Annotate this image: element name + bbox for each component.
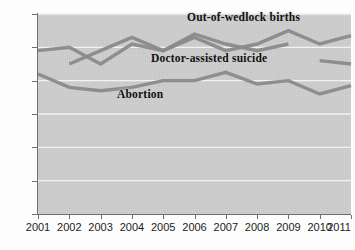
y-tick-mark bbox=[32, 47, 37, 48]
series-label-doctor-assisted-suicide: Doctor-assisted suicide bbox=[151, 52, 267, 64]
y-tick-mark bbox=[32, 147, 37, 148]
x-tick-label-2005: 2005 bbox=[151, 221, 175, 233]
x-tick-label-2011: 2011 bbox=[327, 221, 351, 233]
x-tick-mark bbox=[69, 215, 70, 219]
x-tick-mark bbox=[101, 215, 102, 219]
y-tick-mark bbox=[32, 214, 37, 215]
x-tick-label-2007: 2007 bbox=[214, 221, 238, 233]
x-tick-label-2006: 2006 bbox=[182, 221, 206, 233]
x-tick-label-2001: 2001 bbox=[26, 221, 50, 233]
x-tick-label-2003: 2003 bbox=[88, 221, 112, 233]
x-tick-mark bbox=[320, 215, 321, 219]
x-tick-label-2009: 2009 bbox=[276, 221, 300, 233]
y-tick-mark bbox=[32, 14, 37, 15]
x-tick-mark bbox=[132, 215, 133, 219]
x-tick-label-2002: 2002 bbox=[57, 221, 81, 233]
x-tick-label-2004: 2004 bbox=[120, 221, 144, 233]
x-tick-mark bbox=[288, 215, 289, 219]
series-label-out-of-wedlock-births: Out-of-wedlock births bbox=[187, 11, 300, 23]
x-tick-mark bbox=[38, 215, 39, 219]
y-axis-line bbox=[37, 13, 38, 215]
y-tick-mark bbox=[32, 114, 37, 115]
clipped-header-text bbox=[0, 0, 355, 7]
x-tick-mark bbox=[163, 215, 164, 219]
series-label-abortion: Abortion bbox=[117, 88, 163, 100]
plot-area bbox=[38, 14, 351, 214]
x-tick-mark bbox=[351, 215, 352, 219]
chart-figure: 0102030405060200120022003200420052006200… bbox=[0, 0, 355, 250]
y-tick-mark bbox=[32, 81, 37, 82]
series-lines bbox=[38, 14, 351, 214]
x-tick-mark bbox=[195, 215, 196, 219]
y-tick-mark bbox=[32, 181, 37, 182]
x-tick-mark bbox=[257, 215, 258, 219]
x-tick-label-2008: 2008 bbox=[245, 221, 269, 233]
x-tick-mark bbox=[226, 215, 227, 219]
